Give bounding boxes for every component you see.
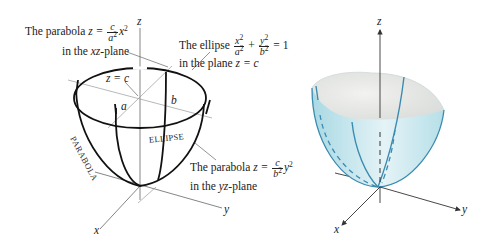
left-z-label: z	[137, 15, 141, 28]
right-y-label: y	[462, 203, 467, 216]
label-b: b	[171, 94, 177, 107]
label-a: a	[121, 100, 127, 113]
annotation-parabola-xz: The parabola z = ca2x2	[25, 22, 128, 43]
right-x-label: x	[334, 223, 339, 236]
right-x-axis	[342, 187, 380, 225]
left-y-label: y	[224, 203, 229, 216]
annotation-parabola-yz-line2: in the yz-plane	[190, 180, 257, 193]
annotation-ellipse: The ellipse x2a2 + y2b2 = 1	[179, 36, 288, 57]
annotation-parabola-xz-line2: in the xz-plane	[62, 45, 129, 58]
right-paraboloid-surface	[312, 72, 444, 187]
annotation-parabola-yz: The parabola z = cb2y2	[190, 158, 293, 179]
annotation-ellipse-line2: in the plane z = c	[179, 57, 259, 70]
left-x-axis	[100, 186, 140, 229]
right-y-axis	[380, 187, 460, 210]
right-z-label: z	[377, 15, 381, 28]
left-x-label: x	[94, 224, 99, 237]
label-z-eq-c: z = c	[106, 72, 129, 85]
